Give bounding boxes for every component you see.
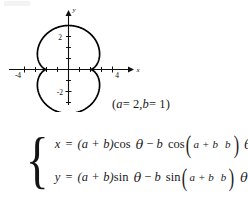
y-axis-arrow (66, 10, 72, 16)
epicycloid-plot: -4 4 2 -2 x y (0, 0, 150, 112)
equation-x-coefficient: b (157, 137, 163, 152)
equation-list: x = (a + b) cos θ − b cos ( a + b b ) (55, 137, 248, 185)
x-tick-label-neg4: -4 (15, 71, 21, 80)
equation-x-function: cos (114, 137, 131, 152)
parametric-equation-system: { x = (a + b) cos θ − b cos ( a + b (22, 120, 246, 202)
equation-x-minus: − (143, 137, 156, 152)
equation-x-frac-numerator: a + b (192, 138, 220, 150)
param-a-value: = 2, (123, 97, 143, 111)
plot-svg: -4 4 2 -2 x y (0, 0, 150, 112)
figure-panel: -4 4 2 -2 x y (a= 2,b= 1) { x = (a + b) … (0, 0, 248, 204)
equation-y: y = (a + b) sin θ − b sin ( a + b b ) (55, 170, 248, 185)
x-tick-label-4: 4 (115, 71, 119, 80)
x-axis-arrow (128, 67, 134, 73)
equation-y-equals: = (65, 170, 72, 185)
y-tick-label-2: 2 (58, 33, 62, 42)
equation-y-function2: sin (166, 170, 181, 185)
equation-y-minus: − (141, 170, 154, 185)
parameter-note: (a= 2,b= 1) (112, 97, 170, 112)
equation-x-amplitude: (a + b) (78, 137, 114, 152)
equation-y-coefficient: b (154, 170, 160, 185)
equation-x-theta: θ (136, 137, 144, 152)
equation-y-theta: θ (134, 170, 142, 185)
equation-x: x = (a + b) cos θ − b cos ( a + b b ) (55, 137, 248, 152)
y-axis-label: y (71, 6, 76, 14)
equation-y-frac-numerator: a + b (187, 171, 215, 183)
y-tick-label-neg2: -2 (57, 88, 63, 97)
equation-y-amplitude: (a + b) (78, 170, 114, 185)
param-b-value: = 1) (149, 97, 170, 111)
equation-x-frac-denominator: b (223, 138, 233, 150)
equation-x-fraction: a + b b (192, 139, 233, 151)
x-axis-label: x (135, 66, 140, 74)
equation-x-function2: cos (168, 137, 185, 152)
equation-y-lhs: y (55, 170, 61, 185)
equation-x-theta-tail: θ (244, 137, 248, 152)
equation-y-theta-tail: θ (240, 170, 248, 185)
equation-x-equals: = (65, 137, 72, 152)
y-axis (66, 10, 72, 105)
equation-y-frac-denominator: b (219, 171, 229, 183)
equation-y-function: sin (114, 170, 129, 185)
equation-x-lhs: x (55, 137, 61, 152)
equation-y-fraction: a + b b (187, 172, 228, 184)
